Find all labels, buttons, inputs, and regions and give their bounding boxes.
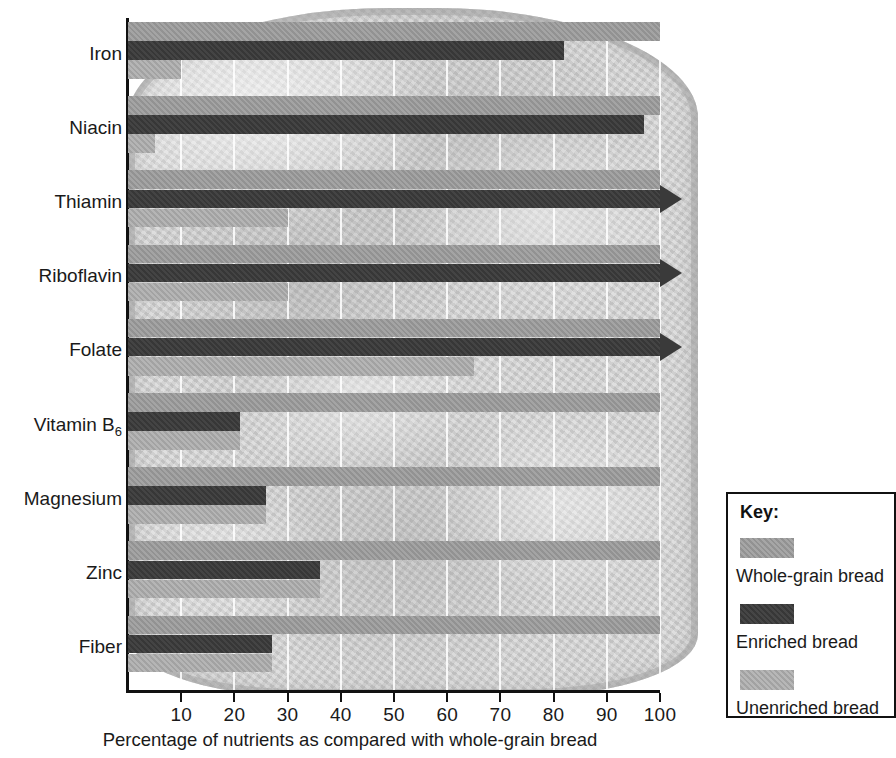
arrowhead-folate <box>660 333 682 361</box>
bar-niacin-whole-grain-bread <box>128 96 660 115</box>
category-label-zinc: Zinc <box>2 562 122 584</box>
x-tick-80 <box>553 693 555 702</box>
bar-riboflavin-enriched-bread <box>128 264 660 283</box>
x-tick-90 <box>606 693 608 702</box>
bar-fiber-unenriched-bread <box>128 654 272 673</box>
legend-label-whole-grain-bread: Whole-grain bread <box>736 566 884 587</box>
bar-niacin-unenriched-bread <box>128 134 155 153</box>
bar-thiamin-whole-grain-bread <box>128 170 660 189</box>
category-label-text: Vitamin B <box>34 414 115 435</box>
legend-key-box: Key: Whole-grain bread Enriched bread Un… <box>726 492 896 718</box>
category-label-riboflavin: Riboflavin <box>2 265 122 287</box>
x-tick-60 <box>446 693 448 702</box>
bar-magnesium-whole-grain-bread <box>128 467 660 486</box>
x-tick-label-20: 20 <box>214 704 254 726</box>
bar-niacin-enriched-bread <box>128 115 644 134</box>
bar-folate-enriched-bread <box>128 338 660 357</box>
category-label-niacin: Niacin <box>2 117 122 139</box>
bar-magnesium-enriched-bread <box>128 486 266 505</box>
bar-folate-whole-grain-bread <box>128 319 660 338</box>
legend-title: Key: <box>740 502 779 523</box>
bar-zinc-enriched-bread <box>128 561 320 580</box>
category-label-subscript: 6 <box>115 423 122 438</box>
bar-iron-unenriched-bread <box>128 60 181 79</box>
legend-swatch-whole-grain-bread <box>740 538 794 558</box>
bar-riboflavin-unenriched-bread <box>128 283 288 302</box>
category-label-iron: Iron <box>2 43 122 65</box>
bar-folate-unenriched-bread <box>128 357 474 376</box>
x-axis-title: Percentage of nutrients as compared with… <box>0 729 700 751</box>
bar-zinc-whole-grain-bread <box>128 541 660 560</box>
bar-riboflavin-whole-grain-bread <box>128 245 660 264</box>
legend-label-enriched-bread: Enriched bread <box>736 632 858 653</box>
x-tick-label-10: 10 <box>161 704 201 726</box>
category-label-magnesium: Magnesium <box>2 488 122 510</box>
x-tick-label-90: 90 <box>587 704 627 726</box>
x-tick-label-50: 50 <box>374 704 414 726</box>
arrowhead-thiamin <box>660 185 682 213</box>
x-tick-label-80: 80 <box>534 704 574 726</box>
bar-fiber-enriched-bread <box>128 635 272 654</box>
x-tick-label-40: 40 <box>321 704 361 726</box>
legend-swatch-unenriched-bread <box>740 670 794 690</box>
x-tick-40 <box>340 693 342 702</box>
nutrient-bar-chart: IronNiacinThiaminRiboflavinFolateVitamin… <box>0 0 896 758</box>
bar-vitamin-b6-enriched-bread <box>128 412 240 431</box>
legend-swatch-enriched-bread <box>740 604 794 624</box>
bar-zinc-unenriched-bread <box>128 580 320 599</box>
x-tick-label-100: 100 <box>640 704 680 726</box>
bar-iron-enriched-bread <box>128 41 564 60</box>
arrowhead-riboflavin <box>660 259 682 287</box>
x-tick-70 <box>499 693 501 702</box>
bar-thiamin-enriched-bread <box>128 190 660 209</box>
category-label-fiber: Fiber <box>2 636 122 658</box>
x-tick-10 <box>180 693 182 702</box>
category-label-folate: Folate <box>2 339 122 361</box>
x-tick-label-70: 70 <box>480 704 520 726</box>
category-axis-labels: IronNiacinThiaminRiboflavinFolateVitamin… <box>0 0 122 758</box>
category-label-vitamin-b: Vitamin B6 <box>2 414 122 439</box>
bar-magnesium-unenriched-bread <box>128 505 266 524</box>
x-tick-label-60: 60 <box>427 704 467 726</box>
x-tick-20 <box>233 693 235 702</box>
category-label-thiamin: Thiamin <box>2 191 122 213</box>
x-tick-50 <box>393 693 395 702</box>
legend-label-unenriched-bread: Unenriched bread <box>736 698 879 719</box>
bar-iron-whole-grain-bread <box>128 22 660 41</box>
x-tick-100 <box>659 693 661 702</box>
x-tick-30 <box>287 693 289 702</box>
x-tick-label-30: 30 <box>268 704 308 726</box>
bar-vitamin-b6-whole-grain-bread <box>128 393 660 412</box>
bar-thiamin-unenriched-bread <box>128 209 288 228</box>
bar-fiber-whole-grain-bread <box>128 616 660 635</box>
bar-vitamin-b6-unenriched-bread <box>128 431 240 450</box>
